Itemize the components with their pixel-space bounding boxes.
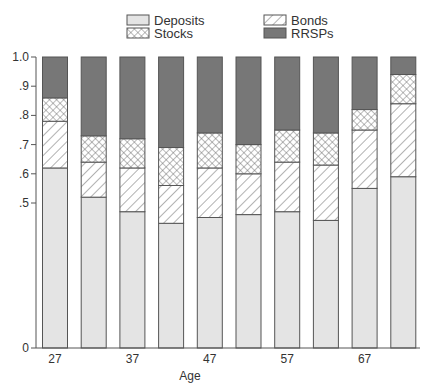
x-axis-title: Age: [179, 369, 201, 383]
bar-age-57: [275, 57, 300, 348]
chart-legend: DepositsStocksBondsRRSPs: [127, 13, 334, 41]
bar-segment-rrsps: [120, 57, 145, 139]
bar-segment-stocks: [313, 133, 338, 165]
bar-age-52: [236, 57, 261, 348]
bar-age-32: [81, 57, 106, 348]
y-tick-label: .8: [19, 108, 29, 122]
x-tick-label: 27: [48, 352, 62, 366]
legend-swatch: [127, 15, 149, 25]
bars-group: [43, 57, 416, 348]
bar-age-27: [43, 57, 68, 348]
bar-segment-stocks: [197, 133, 222, 168]
bar-segment-deposits: [391, 177, 416, 348]
bar-segment-deposits: [275, 212, 300, 348]
bar-segment-stocks: [236, 145, 261, 174]
bar-segment-deposits: [159, 223, 184, 348]
bar-age-72: [391, 57, 416, 348]
bar-segment-deposits: [43, 168, 68, 348]
legend-swatch: [264, 15, 286, 25]
bar-segment-bonds: [81, 162, 106, 197]
y-tick-label: .9: [19, 79, 29, 93]
x-axis: 2737475767Age: [36, 348, 420, 383]
bar-segment-rrsps: [352, 57, 377, 110]
bar-segment-bonds: [275, 162, 300, 212]
bar-segment-deposits: [236, 215, 261, 348]
bar-segment-stocks: [81, 136, 106, 162]
x-tick-label: 67: [358, 352, 372, 366]
bar-segment-bonds: [197, 168, 222, 218]
bar-age-37: [120, 57, 145, 348]
bar-segment-stocks: [352, 110, 377, 130]
bar-segment-stocks: [159, 148, 184, 186]
bar-segment-rrsps: [236, 57, 261, 145]
x-tick-label: 47: [203, 352, 217, 366]
legend-label: RRSPs: [291, 26, 334, 41]
bar-segment-bonds: [120, 168, 145, 212]
bar-segment-rrsps: [43, 57, 68, 98]
bar-segment-rrsps: [197, 57, 222, 133]
bar-segment-bonds: [313, 165, 338, 220]
x-tick-label: 37: [126, 352, 140, 366]
y-tick-label: .7: [19, 138, 29, 152]
bar-segment-deposits: [313, 220, 338, 348]
bar-segment-rrsps: [81, 57, 106, 136]
bar-segment-deposits: [352, 188, 377, 348]
y-tick-label: 0: [22, 341, 29, 355]
x-tick-label: 57: [281, 352, 295, 366]
bar-segment-rrsps: [275, 57, 300, 130]
bar-segment-bonds: [43, 121, 68, 168]
bar-age-67: [352, 57, 377, 348]
legend-item-rrsps: RRSPs: [264, 26, 334, 41]
bar-segment-stocks: [120, 139, 145, 168]
bar-age-47: [197, 57, 222, 348]
legend-swatch: [264, 28, 286, 38]
bar-segment-rrsps: [313, 57, 338, 133]
bar-segment-bonds: [352, 130, 377, 188]
y-tick-label: 1.0: [12, 50, 29, 64]
bar-segment-deposits: [120, 212, 145, 348]
y-tick-label: .5: [19, 196, 29, 210]
bar-segment-stocks: [275, 130, 300, 162]
legend-label: Stocks: [154, 26, 194, 41]
bar-segment-stocks: [391, 75, 416, 104]
bar-segment-rrsps: [391, 57, 416, 75]
y-axis: 0.5.6.7.8.91.0: [12, 50, 36, 355]
bar-segment-rrsps: [159, 57, 184, 148]
bar-segment-bonds: [159, 185, 184, 223]
stacked-bar-chart: DepositsStocksBondsRRSPs 0.5.6.7.8.91.0 …: [0, 0, 440, 389]
bar-segment-deposits: [197, 218, 222, 349]
bar-segment-bonds: [391, 104, 416, 177]
y-tick-label: .6: [19, 167, 29, 181]
legend-item-stocks: Stocks: [127, 26, 194, 41]
bar-age-62: [313, 57, 338, 348]
bar-age-42: [159, 57, 184, 348]
bar-segment-deposits: [81, 197, 106, 348]
bar-segment-stocks: [43, 98, 68, 121]
legend-swatch: [127, 28, 149, 38]
bar-segment-bonds: [236, 174, 261, 215]
